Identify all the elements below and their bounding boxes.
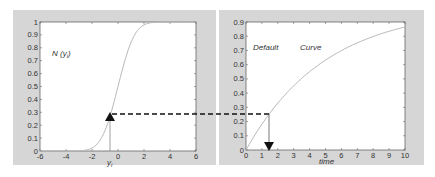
x-tick-label: 1 — [260, 151, 264, 160]
right-plot-area — [246, 22, 405, 150]
x-tick-label: 8 — [371, 151, 375, 160]
y-tick-label: 0.4 — [234, 89, 244, 98]
y-tick-label: 1 — [34, 18, 38, 27]
y-tick-label: 0.8 — [28, 43, 38, 52]
y-tick-label: 0.3 — [234, 103, 244, 112]
y-tick-label: 0.6 — [234, 60, 244, 69]
y-tick-label: 0.7 — [234, 46, 244, 55]
y-tick-label: 0.7 — [28, 56, 38, 65]
y-tick-label: 0.1 — [234, 131, 244, 140]
x-tick-label: 0 — [244, 151, 248, 160]
y-tick-label: 0.1 — [28, 134, 38, 143]
y-tick-label: 0.6 — [28, 69, 38, 78]
x-tick-label: 4 — [308, 151, 312, 160]
y-tick-label: 0.9 — [234, 18, 244, 27]
right-annotation-curve: Curve — [300, 43, 322, 52]
y-tick-label: 0.5 — [234, 74, 244, 83]
y-tick-label: 0.2 — [234, 117, 244, 126]
right-annotation-default: Default — [253, 43, 279, 52]
x-tick-label: 6 — [339, 151, 343, 160]
y-tick-label: 0.9 — [28, 30, 38, 39]
x-tick-label: 3 — [292, 151, 296, 160]
y-tick-label: 0.3 — [28, 108, 38, 117]
x-tick-label: 9 — [387, 151, 391, 160]
figure: -6-4-2024600.10.20.30.40.50.60.70.80.91 … — [0, 0, 435, 177]
x-tick-label: -4 — [63, 152, 70, 161]
y-tick-label: 0.5 — [28, 82, 38, 91]
x-tick-label: 7 — [355, 151, 359, 160]
x-tick-label: 6 — [194, 152, 198, 161]
x-tick-label: 2 — [142, 152, 146, 161]
x-tick-label: 0 — [116, 152, 120, 161]
y-tick-label: 0.4 — [28, 95, 38, 104]
x-tick-label: 10 — [401, 151, 409, 160]
right-x-axis-label: time — [319, 157, 335, 166]
x-tick-label: -2 — [89, 152, 96, 161]
y-tick-label: 0 — [240, 146, 244, 155]
y-tick-label: 0.8 — [234, 32, 244, 41]
left-annotation: N (yi) — [52, 49, 71, 59]
x-tick-label: 2 — [276, 151, 280, 160]
y-tick-label: 0.2 — [28, 121, 38, 130]
x-tick-label: 4 — [168, 152, 172, 161]
y-tick-label: 0 — [34, 147, 38, 156]
